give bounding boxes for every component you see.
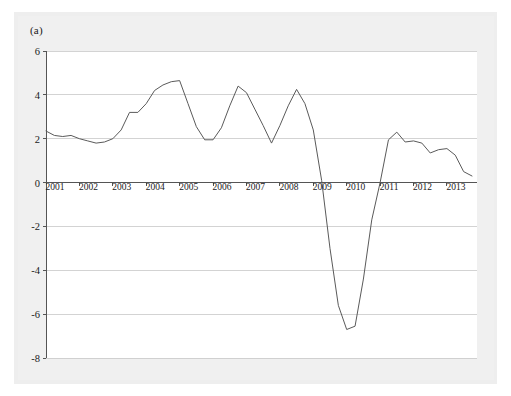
x-tick-label: 2006 (213, 182, 232, 192)
x-tick-label: 2013 (446, 182, 465, 192)
data-line-group (46, 81, 472, 330)
tick-marks-group (43, 51, 447, 358)
x-tick-label: 2004 (146, 182, 165, 192)
x-tick-label: 2001 (46, 182, 65, 192)
x-tick-label: 2010 (346, 182, 365, 192)
x-tick-label: 2012 (413, 182, 432, 192)
x-tick-label: 2008 (279, 182, 298, 192)
x-tick-label: 2003 (112, 182, 131, 192)
x-tick-label: 2002 (79, 182, 98, 192)
x-tick-label: 2005 (179, 182, 198, 192)
chart-svg (0, 0, 511, 396)
x-tick-label: 2009 (313, 182, 332, 192)
gridlines-group (46, 51, 477, 358)
data-line-series-a (46, 81, 472, 330)
figure-container: (a) 6420-2-4-6-8 20012002200320042005200… (0, 0, 511, 396)
x-tick-label: 2007 (246, 182, 265, 192)
x-tick-label: 2011 (380, 182, 399, 192)
